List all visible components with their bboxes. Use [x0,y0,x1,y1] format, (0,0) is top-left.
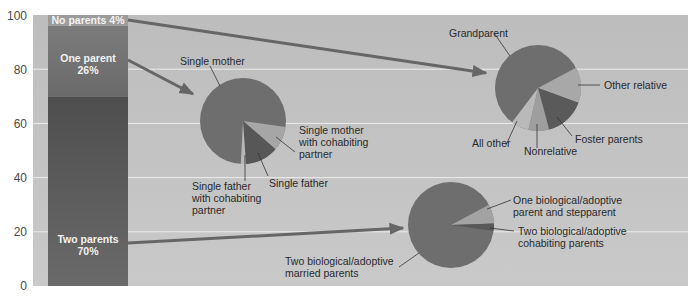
label-single-father: Single father [269,177,328,189]
label-nonrelative: Nonrelative [524,145,577,157]
y-tick-60: 60 [14,117,28,131]
y-tick-40: 40 [14,171,28,185]
label-other-relative: Other relative [604,79,667,91]
label-grandparent: Grandparent [449,27,508,39]
y-tick-80: 80 [14,63,28,77]
y-tick-100: 100 [7,9,27,23]
two-parents-percent: 70% [77,245,99,257]
label-all-other: All other [472,137,511,149]
bar-segment-two-parents [48,96,128,286]
label-single-mother-cohab-3: partner [299,148,333,160]
label-stepparent-2: parent and stepparent [513,206,616,218]
stacked-bar: No parents 4% One parent 26% Two parents… [48,14,128,287]
one-parent-label: One parent [60,52,116,64]
label-cohabiting-2: cohabiting parents [518,237,604,249]
label-married-1: Two biological/adoptive [285,255,394,267]
label-married-2: married parents [285,267,359,279]
family-structure-chart: 100 80 60 40 20 0 No parents 4% One pare… [0,0,694,301]
label-single-father-cohab-3: partner [192,204,226,216]
y-tick-20: 20 [14,225,28,239]
label-single-father-cohab-1: Single father [192,180,251,192]
no-parents-label: No parents 4% [52,14,126,26]
pie-one-parent [200,78,286,164]
y-tick-0: 0 [20,279,27,293]
y-axis: 100 80 60 40 20 0 [7,9,27,294]
label-single-father-cohab-2: with cohabiting [191,192,262,204]
pie-no-parents [495,45,581,131]
pie-two-parents [408,182,494,268]
label-single-mother-cohab-1: Single mother [299,124,364,136]
one-parent-percent: 26% [77,64,99,76]
label-single-mother-cohab-2: with cohabiting [298,136,369,148]
label-foster-parents: Foster parents [575,133,643,145]
label-cohabiting-1: Two biological/adoptive [518,225,627,237]
label-single-mother: Single mother [180,55,245,67]
two-parents-label: Two parents [57,233,118,245]
label-stepparent-1: One biological/adoptive [513,194,622,206]
